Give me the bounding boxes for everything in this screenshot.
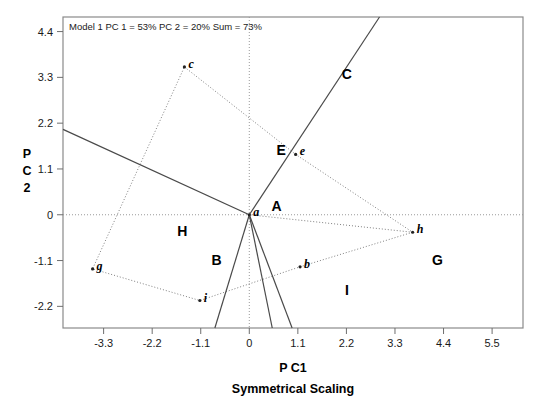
x-tick-label: 4.4 [436,337,451,349]
x-tick-label: -2.2 [143,337,162,349]
x-tick-label: 2.2 [339,337,354,349]
x-tick-label: 3.3 [387,337,402,349]
chart-canvas: -3.3-2.2-1.101.12.23.34.45.54.43.32.21.1… [0,0,541,414]
site-point-label-i: i [204,291,208,305]
region-label-C: C [342,66,352,82]
x-tick-label: 5.5 [484,337,499,349]
region-label-A: A [272,198,282,214]
x-tick-label: -1.1 [191,337,210,349]
region-label-I: I [345,282,349,298]
chart-subtitle: Symmetrical Scaling [232,382,354,396]
y-axis-title-char: 2 [24,181,31,195]
site-point-marker-a [248,213,251,216]
site-point-label-g: g [96,259,103,273]
x-tick-label: 1.1 [290,337,305,349]
convex-hull-group [93,67,413,301]
region-label-E: E [276,142,285,158]
site-point-label-a: a [253,205,259,219]
site-point-marker-h [411,231,414,234]
y-tick-label: 4.4 [38,26,53,38]
y-tick-label: -2.2 [34,300,53,312]
y-tick-label: 0 [47,209,53,221]
model-variance-title: Model 1 PC 1 = 53% PC 2 = 20% Sum = 73% [69,21,263,32]
pca-biplot: -3.3-2.2-1.101.12.23.34.45.54.43.32.21.1… [0,0,541,414]
y-axis-title-char: C [22,164,31,178]
site-point-marker-g [91,267,94,270]
hull-spoke [249,215,412,232]
y-axis-title-char: P [23,147,31,161]
region-label-H: H [177,223,187,239]
site-point-marker-b [298,265,301,268]
site-point-label-c: c [188,57,194,71]
plot-border [63,17,523,328]
site-point-label-e: e [300,144,306,158]
y-tick-label: 2.2 [38,117,53,129]
site-point-label-h: h [417,222,424,236]
site-point-label-b: b [304,257,310,271]
species-vector-C [249,17,379,215]
region-label-G: G [432,252,443,268]
site-point-group: abceghi [91,57,424,305]
site-point-marker-i [198,299,201,302]
species-vector-upper-left [63,129,249,214]
convex-hull-outline [93,67,413,301]
species-vector-group [63,17,380,328]
x-tick-label: -3.3 [94,337,113,349]
plot-frame-group [63,17,523,328]
species-vector-lower-left [215,215,249,328]
y-tick-label: 1.1 [38,163,53,175]
site-point-marker-c [183,65,186,68]
region-label-B: B [212,252,222,268]
species-vector-lower-mid [249,215,272,328]
y-tick-label: 3.3 [38,71,53,83]
x-axis-title: P C1 [279,361,307,375]
x-tick-label: 0 [246,337,252,349]
zero-axis-group [63,17,523,328]
y-tick-label: -1.1 [34,255,53,267]
site-point-marker-e [294,153,297,156]
